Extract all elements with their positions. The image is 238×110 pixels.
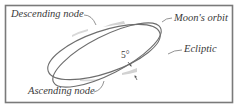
inclination-angle-label: 5° [121,51,130,61]
moons-orbit-label: Moon's orbit [174,13,228,24]
descending-node-label: Descending node [11,9,84,20]
ecliptic-label: Ecliptic [184,44,217,55]
ascending-node-label: Ascending node [28,86,95,97]
